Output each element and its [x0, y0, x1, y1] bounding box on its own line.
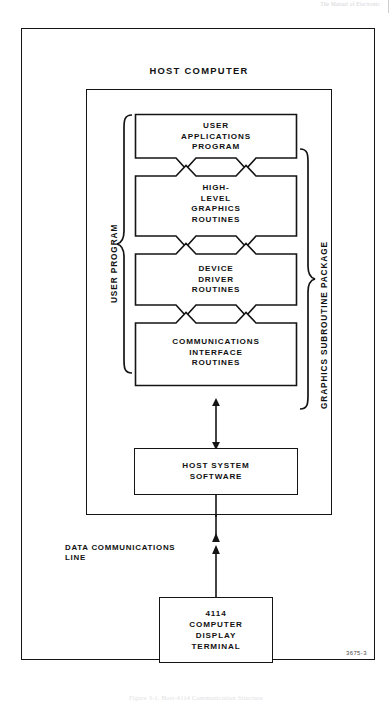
- graphics-subroutine-package-label: GRAPHICS SUBROUTINE PACKAGE: [320, 241, 329, 409]
- layer-device-driver-routines[interactable]: DEVICE DRIVER ROUTINES: [134, 242, 298, 322]
- connector-line-to-boundary: [209, 495, 223, 517]
- layer-high-level-graphics-routines[interactable]: HIGH- LEVEL GRAPHICS ROUTINES: [134, 164, 298, 253]
- software-layer-stack: USER APPLICATIONS PROGRAM HIGH- LEVEL GR…: [134, 113, 298, 387]
- header-rule-divider: [388, 0, 389, 13]
- terminal-4114-box[interactable]: 4114 COMPUTER DISPLAY TERMINAL: [159, 597, 273, 663]
- graphics-subroutine-package-brace: [298, 147, 316, 411]
- user-program-label: USER PROGRAM: [110, 224, 119, 303]
- data-communications-line-label: DATA COMMUNICATIONS LINE: [65, 543, 175, 564]
- figure-code: 3675-3: [346, 650, 367, 656]
- connector-arrow-data-communications: [209, 515, 223, 599]
- figure-caption: Figure 3-1. Host-4114 Communication Stru…: [0, 694, 392, 701]
- terminal-label-line: COMPUTER: [189, 619, 243, 630]
- connector-arrow-internal: [209, 398, 223, 450]
- diagram-outer-frame: HOST COMPUTER USER PROGRAM GRAPHICS SUBR…: [21, 28, 375, 660]
- data-comm-line-1: DATA COMMUNICATIONS: [65, 543, 175, 553]
- host-computer-title: HOST COMPUTER: [22, 65, 376, 76]
- host-system-software-line: SOFTWARE: [182, 472, 249, 483]
- terminal-label-line: DISPLAY: [189, 630, 243, 641]
- data-comm-line-2: LINE: [65, 553, 175, 563]
- running-header: The Manual of Electronic: [321, 1, 380, 7]
- terminal-label-line: 4114: [189, 608, 243, 619]
- terminal-label-line: TERMINAL: [189, 641, 243, 652]
- host-system-software-box[interactable]: HOST SYSTEM SOFTWARE: [134, 448, 298, 495]
- host-system-software-line: HOST SYSTEM: [182, 461, 249, 472]
- layer-communications-interface-routines[interactable]: COMMUNICATIONS INTERFACE ROUTINES: [134, 311, 298, 387]
